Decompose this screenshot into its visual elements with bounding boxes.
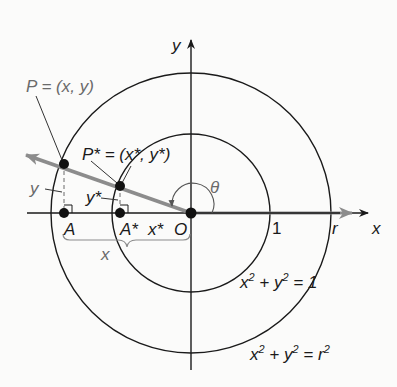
x-axis-label: x	[371, 219, 381, 238]
point-origin	[186, 208, 197, 219]
x-brace-label: x	[100, 245, 110, 264]
unit-radius-label: 1	[272, 219, 281, 238]
point-p	[59, 159, 69, 169]
polar-coordinate-diagram: y x P = (x, y) P* = (x*, y*) y y* A A* x…	[0, 0, 397, 387]
outer-circle-equation: x2 + y2 = r2	[249, 343, 330, 364]
x-star-label: x*	[147, 220, 165, 239]
point-a	[59, 208, 69, 218]
y-label: y	[29, 179, 40, 198]
unit-circle-equation: x2 + y2 = 1	[239, 271, 317, 292]
point-a-star	[115, 208, 125, 218]
a-star-label: A*	[119, 220, 139, 239]
y-star-label: y*	[85, 188, 103, 207]
p-leader	[36, 96, 62, 160]
p-star-label: P* = (x*, y*)	[82, 145, 170, 164]
point-p-star	[115, 181, 125, 191]
a-label: A	[63, 220, 75, 239]
y-star-leader	[101, 198, 118, 200]
origin-label: O	[174, 220, 187, 239]
theta-label: θ	[210, 178, 220, 197]
y-axis-label: y	[171, 36, 182, 55]
p-label: P = (x, y)	[26, 77, 94, 96]
outer-radius-label: r	[332, 219, 339, 238]
